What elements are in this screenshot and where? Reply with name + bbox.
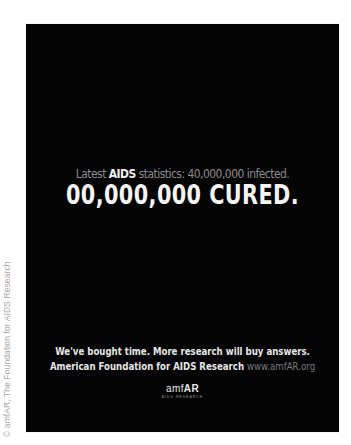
headline-statistics: Latest AIDS statistics: 40,000,000 infec… bbox=[48, 166, 317, 181]
foundation-line: American Foundation for AIDS Research ww… bbox=[48, 361, 317, 372]
website-link[interactable]: www.amfAR.org bbox=[247, 361, 315, 372]
headline-prefix: Latest bbox=[76, 166, 109, 181]
amfar-logo: amfAR bbox=[26, 383, 339, 394]
logo-bold: AR bbox=[184, 383, 199, 394]
headline-cured: 00,000,000 CURED. bbox=[57, 180, 307, 210]
ad-panel: Latest AIDS statistics: 40,000,000 infec… bbox=[26, 24, 339, 432]
logo-light: amf bbox=[166, 383, 184, 394]
logo-subtitle: AIDS RESEARCH bbox=[26, 395, 339, 399]
headline-bold: AIDS bbox=[109, 166, 136, 181]
tagline: We've bought time. More research will bu… bbox=[48, 346, 317, 357]
headline-suffix: statistics: 40,000,000 infected. bbox=[136, 166, 289, 181]
image-credit: © amfAR, The Foundation for AIDS Researc… bbox=[2, 261, 12, 437]
foundation-name: American Foundation for AIDS Research bbox=[50, 361, 247, 372]
